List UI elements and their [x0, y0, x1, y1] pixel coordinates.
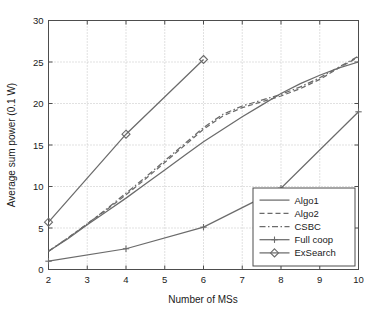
x-tick-label: 4: [123, 274, 128, 285]
legend-label-algo1: Algo1: [295, 195, 319, 206]
y-tick-label: 20: [33, 98, 44, 109]
chart-figure: 2345678910051015202530 Number of MSs Ave…: [0, 0, 384, 312]
legend-label-exsearch: ExSearch: [295, 247, 336, 258]
x-tick-label: 3: [85, 274, 90, 285]
line-chart: 2345678910051015202530 Number of MSs Ave…: [0, 0, 384, 312]
x-tick-label: 2: [46, 274, 51, 285]
y-tick-label: 5: [38, 223, 43, 234]
y-axis-title: Average sum power (0.1 W): [6, 83, 17, 207]
y-tick-label: 10: [33, 181, 44, 192]
y-tick-label: 15: [33, 140, 44, 151]
legend-label-algo2: Algo2: [295, 208, 319, 219]
legend-label-full-coop: Full coop: [295, 234, 334, 245]
chart-legend: Algo1Algo2CSBCFull coopExSearch: [253, 188, 355, 266]
y-tick-label: 25: [33, 57, 44, 68]
x-tick-label: 8: [278, 274, 283, 285]
x-tick-label: 5: [162, 274, 167, 285]
x-tick-label: 10: [353, 274, 364, 285]
y-tick-label: 30: [33, 15, 44, 26]
y-tick-label: 0: [38, 264, 43, 275]
x-tick-label: 7: [240, 274, 245, 285]
x-tick-label: 6: [201, 274, 206, 285]
x-tick-label: 9: [317, 274, 322, 285]
legend-label-csbc: CSBC: [295, 221, 322, 232]
x-axis-title: Number of MSs: [168, 294, 237, 305]
